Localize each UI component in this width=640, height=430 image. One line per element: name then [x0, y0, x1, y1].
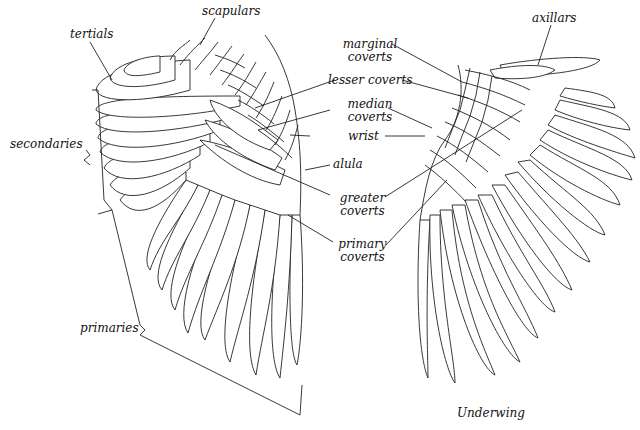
leading-edge [265, 35, 301, 215]
label-primary-coverts: primary coverts [335, 238, 390, 264]
wing-drawings [0, 0, 640, 430]
leader-scapulars [200, 18, 215, 45]
tertials-feathers [96, 56, 190, 100]
label-alula: alula [333, 158, 363, 171]
label-tertials: tertials [70, 28, 113, 41]
underwing-caption: Underwing [457, 407, 525, 420]
underwing-drawing [385, 25, 635, 383]
label-greater-coverts: greater coverts [335, 192, 390, 218]
label-lesser-coverts: lesser coverts [328, 74, 412, 87]
upperwing-drawing [84, 18, 335, 415]
label-scapulars: scapulars [202, 5, 260, 18]
leader-tertials [90, 42, 112, 80]
label-axillars: axillars [532, 12, 576, 25]
label-marginal-coverts: marginal coverts [340, 38, 400, 64]
primaries-feathers [147, 180, 303, 378]
label-secondaries: secondaries [10, 138, 83, 151]
wing-anatomy-diagram: scapulars tertials secondaries primaries… [0, 0, 640, 430]
label-primaries: primaries [80, 322, 139, 335]
axillars-feathers [490, 58, 600, 79]
label-median-coverts: median coverts [340, 98, 400, 124]
underwing-primaries [418, 160, 605, 383]
label-wrist: wrist [348, 130, 379, 143]
